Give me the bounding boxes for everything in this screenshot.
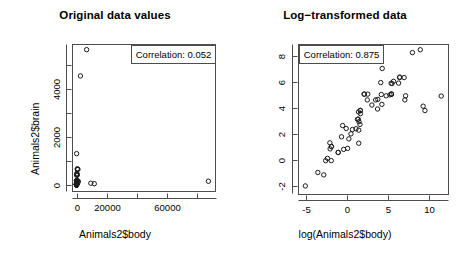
data-point [380, 102, 384, 106]
data-point [396, 81, 400, 85]
y-tick-label-right-3: 4 [276, 106, 287, 111]
x-axis-title-original: Animals2$body [0, 228, 230, 240]
x-tick-label-right-1: 0 [345, 204, 350, 215]
data-point [379, 92, 383, 96]
x-tick-label-left-3: 60000 [154, 202, 180, 213]
data-points-log [303, 48, 443, 189]
r-plot-figure: Original data values 0 20000 60000 [0, 0, 460, 265]
y-tick-label-right-5: 8 [276, 54, 287, 59]
data-point [380, 66, 384, 70]
data-point [78, 74, 82, 78]
x-tick-label-right-3: 10 [424, 204, 435, 215]
correlation-annotation-left: Correlation: 0.052 [132, 46, 216, 64]
data-point [322, 173, 326, 177]
data-point [303, 184, 307, 188]
data-point [379, 80, 383, 84]
data-point [423, 108, 427, 112]
panel-log-transformed: Log−transformed data -5 0 5 10 [230, 0, 460, 265]
y-tick-label-right-0: -2 [276, 182, 287, 190]
x-tick-label-right-2: 5 [386, 204, 391, 215]
data-point [349, 132, 353, 136]
data-point [84, 47, 88, 51]
plot-frame-right [299, 45, 449, 195]
x-axis-title-log: log(Animals2$body) [230, 228, 460, 240]
data-point [410, 50, 414, 54]
y-axis-title-original: Animals2$brain [29, 103, 41, 175]
data-points-original [74, 47, 210, 187]
x-axis-left: 0 20000 60000 [73, 194, 217, 214]
x-tick-label-right-0: -5 [302, 204, 310, 215]
data-point [421, 104, 425, 108]
x-axis-right: -5 0 5 10 [299, 196, 449, 216]
y-tick-label-right-4: 6 [276, 80, 287, 85]
data-point [336, 150, 340, 154]
correlation-annotation-right: Correlation: 0.875 [300, 46, 384, 64]
data-point [206, 179, 210, 183]
plot-frame-left [73, 45, 216, 192]
y-axis-left: 0 2000 4000 [51, 45, 72, 192]
panel-original-data: Original data values 0 20000 60000 [0, 0, 230, 265]
data-point [418, 48, 422, 52]
x-tick-label-left-1: 20000 [94, 202, 120, 213]
data-point [358, 122, 362, 126]
data-point [347, 137, 351, 141]
y-tick-label-left-2: 2000 [51, 127, 62, 148]
data-point [74, 151, 78, 155]
data-point [365, 98, 369, 102]
data-point [316, 170, 320, 174]
y-axis-right: -2 0 2 4 6 8 [276, 45, 298, 194]
correlation-label-left: Correlation: 0.052 [136, 49, 212, 60]
data-point [370, 103, 374, 107]
data-point [402, 75, 406, 79]
data-point [439, 94, 443, 98]
data-point [357, 141, 361, 145]
y-tick-label-left-0: 0 [51, 183, 62, 188]
y-tick-label-left-4: 4000 [51, 79, 62, 100]
data-point [340, 123, 344, 127]
correlation-label-right: Correlation: 0.875 [304, 49, 380, 60]
y-tick-label-right-1: 0 [276, 158, 287, 163]
y-tick-label-right-2: 2 [276, 132, 287, 137]
scatter-plot-log: -5 0 5 10 -2 0 2 4 6 8 [230, 0, 460, 265]
data-point [375, 107, 379, 111]
data-point [339, 135, 343, 139]
x-tick-label-left-0: 0 [75, 202, 80, 213]
